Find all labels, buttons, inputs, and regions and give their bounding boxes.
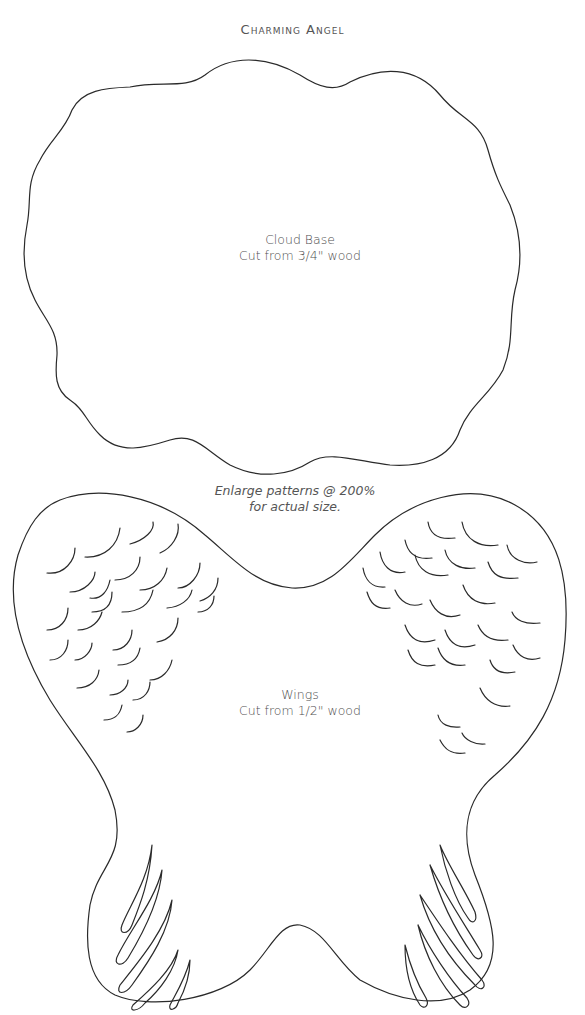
cloud-base-outline [24,60,520,474]
enlarge-note-line1: Enlarge patterns @ 200% [180,483,410,499]
cloud-base-label: Cloud Base Cut from 3/4" wood [192,232,408,264]
enlarge-note-line2: for actual size. [180,499,410,515]
cloud-base-name: Cloud Base [192,232,408,248]
wings-name: Wings [192,687,408,703]
cloud-base-instruction: Cut from 3/4" wood [192,248,408,264]
wings-instruction: Cut from 1/2" wood [192,703,408,719]
wings-label: Wings Cut from 1/2" wood [192,687,408,719]
enlarge-note: Enlarge patterns @ 200% for actual size. [180,483,410,515]
wings-outline [13,493,566,1002]
left-wing-lower-feathers [116,845,190,1010]
right-wing-lower-feathers [405,845,484,1007]
